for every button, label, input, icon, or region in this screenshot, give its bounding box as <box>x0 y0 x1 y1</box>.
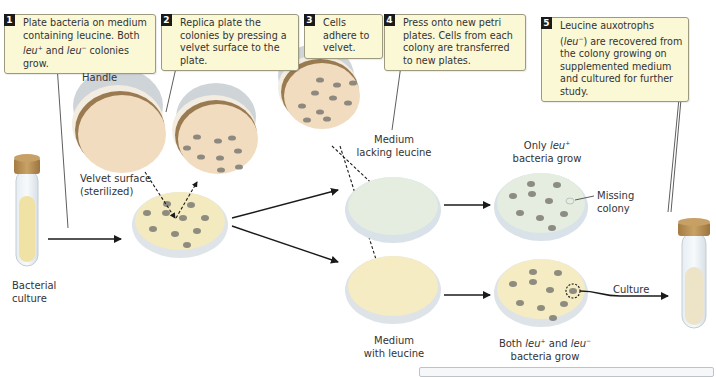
leu-minus-culture-tube-icon <box>678 218 710 328</box>
step-4-callout: 4 Press onto new petri plates. Cells fro… <box>384 14 526 71</box>
step-5-callout: 5 Leucine auxotrophs (leu−) are recovere… <box>541 17 689 102</box>
only-leu-plus-label: Only leu+ bacteria grow <box>497 136 597 165</box>
plate-lacking-leucine-icon <box>345 177 441 243</box>
step-number-badge: 3 <box>304 14 315 26</box>
step-3-callout: 3 Cells adhere to velvet. <box>304 14 383 59</box>
medium-with-leucine-label: Medium with leucine <box>344 334 444 360</box>
step-number-badge: 5 <box>541 17 552 29</box>
step-1-callout: 1 Plate bacteria on medium containing le… <box>4 14 156 74</box>
plate-only-leu-plus-icon <box>494 173 594 241</box>
culture-label: Culture <box>613 283 649 296</box>
step-2-callout: 2 Replica plate the colonies by pressing… <box>161 14 299 71</box>
master-plate-icon <box>132 192 228 258</box>
step-number-badge: 2 <box>161 14 172 26</box>
arrow-to-with <box>232 226 338 262</box>
bottom-panel-edge <box>419 367 714 377</box>
handle-label: Handle <box>82 71 117 84</box>
velvet-block-with-colonies-icon <box>172 83 258 174</box>
step-number-badge: 1 <box>4 14 15 26</box>
missing-colony-label: Missing colony <box>597 189 634 215</box>
medium-lacking-leucine-label: Medium lacking leucine <box>344 133 444 159</box>
arrow-to-lacking <box>232 190 338 218</box>
bacterial-culture-label: Bacterial culture <box>12 279 56 305</box>
step-number-badge: 4 <box>384 14 395 26</box>
bacterial-culture-tube-icon <box>14 154 40 266</box>
plate-both-icon <box>494 259 588 327</box>
plate-with-leucine-icon <box>345 256 441 324</box>
both-leu-label: Both leu+ and leu− bacteria grow <box>486 334 604 363</box>
velvet-surface-label: Velvet surface (sterilized) <box>80 172 151 198</box>
